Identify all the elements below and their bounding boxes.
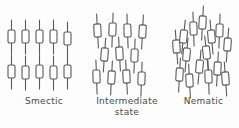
molecule-field-smectic: [0, 0, 88, 94]
molecule-rod: [122, 60, 131, 94]
molecule-body: [64, 32, 71, 45]
panel-smectic: Smectic: [0, 0, 88, 128]
molecule-body: [22, 66, 29, 79]
molecule-body: [202, 46, 210, 60]
molecule-body: [190, 22, 197, 35]
molecule-rod: [175, 58, 184, 92]
molecule-body: [93, 70, 100, 83]
panel-nematic: Nematic: [168, 0, 239, 128]
molecule-rod: [130, 39, 138, 73]
molecule-rod: [137, 62, 145, 96]
caption-intermediate-line1: Intermediate: [96, 96, 158, 106]
molecule-rod: [185, 64, 194, 98]
molecule-rod: [115, 37, 124, 71]
molecule-rod: [36, 20, 43, 54]
molecule-rod: [198, 6, 207, 40]
molecule-body: [109, 23, 116, 36]
molecule-body: [36, 30, 43, 43]
molecule-rod: [107, 61, 116, 95]
molecule-rod: [108, 13, 116, 47]
caption-nematic-line1: Nematic: [184, 96, 224, 106]
molecule-field-intermediate: [84, 0, 170, 94]
caption-smectic: Smectic: [0, 96, 88, 107]
panel-intermediate: Intermediate state: [84, 0, 170, 128]
molecule-body: [138, 72, 145, 85]
molecules-smectic: [0, 0, 88, 94]
molecule-body: [101, 48, 109, 61]
molecule-rod: [221, 62, 230, 96]
molecule-body: [205, 70, 212, 83]
molecule-rod: [93, 14, 102, 48]
molecule-field-nematic: [168, 0, 239, 94]
molecule-body: [50, 30, 57, 43]
caption-nematic: Nematic: [168, 96, 239, 107]
molecule-body: [182, 48, 190, 62]
molecule-rod: [64, 55, 71, 89]
molecules-intermediate: [84, 0, 170, 94]
molecule-body: [36, 65, 43, 78]
molecule-body: [22, 30, 29, 43]
molecule-body: [186, 74, 194, 87]
molecule-body: [195, 60, 203, 74]
molecule-body: [131, 49, 138, 62]
molecule-rod: [100, 38, 109, 72]
molecule-body: [222, 72, 230, 85]
molecule-body: [207, 30, 215, 44]
molecule-rod: [50, 20, 57, 54]
molecule-rod: [215, 14, 223, 48]
caption-intermediate-line2: state: [84, 107, 170, 118]
molecules-nematic: [168, 0, 239, 94]
molecule-body: [179, 30, 187, 44]
molecule-rod: [138, 15, 147, 49]
molecule-body: [216, 24, 223, 37]
molecule-rod: [22, 56, 29, 90]
molecule-body: [139, 25, 147, 38]
molecule-rod: [189, 12, 197, 46]
molecule-rod: [64, 22, 71, 56]
molecule-rod: [213, 52, 222, 86]
molecule-body: [8, 65, 15, 78]
molecule-rod: [204, 60, 212, 94]
molecule-rod: [50, 56, 57, 90]
molecule-body: [214, 62, 222, 75]
molecule-rod: [8, 55, 15, 89]
molecule-body: [8, 30, 15, 43]
caption-intermediate: Intermediate state: [84, 96, 170, 118]
molecule-rod: [22, 20, 29, 54]
molecule-rod: [92, 60, 100, 94]
molecule-body: [50, 66, 57, 79]
molecule-body: [224, 38, 232, 51]
molecule-body: [116, 47, 124, 60]
molecule-body: [124, 24, 131, 37]
liquid-crystal-phase-figure: Smectic Intermediate state Nematic: [0, 0, 239, 128]
molecule-body: [64, 65, 71, 78]
molecule-rod: [123, 14, 131, 48]
molecule-body: [176, 68, 184, 81]
molecule-rod: [36, 55, 43, 89]
molecule-rod: [8, 20, 15, 54]
molecule-body: [94, 24, 102, 37]
caption-smectic-line1: Smectic: [25, 96, 63, 106]
molecule-rod: [223, 28, 232, 62]
molecule-body: [108, 71, 116, 84]
molecule-body: [199, 16, 207, 29]
molecule-body: [123, 70, 131, 83]
